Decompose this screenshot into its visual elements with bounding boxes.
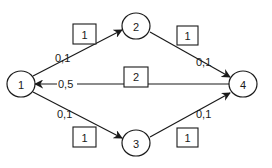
flow-label-2-4: 0,1 — [196, 56, 211, 68]
capacity-label-3-4: 1 — [184, 132, 190, 144]
edge-4-1: 2 0,5 — [35, 67, 230, 90]
capacity-label-4-1: 2 — [133, 71, 139, 83]
flow-label-4-1: 0,5 — [58, 78, 73, 90]
flow-label-3-4: 0,1 — [196, 108, 211, 120]
node-label-2: 2 — [133, 21, 139, 33]
edge-3-4: 1 0,1 — [150, 93, 230, 147]
edge-2-4: 1 0,1 — [150, 26, 230, 77]
network-diagram: 1 0,1 1 0,1 2 0,5 1 0,1 1 0,1 1 2 — [0, 0, 272, 168]
node-label-1: 1 — [18, 79, 24, 91]
flow-label-1-3: 0,1 — [57, 108, 72, 120]
capacity-label-2-4: 1 — [184, 30, 190, 42]
capacity-label-1-2: 1 — [81, 29, 87, 41]
capacity-label-1-3: 1 — [81, 132, 87, 144]
node-2: 2 — [122, 13, 150, 39]
node-4: 4 — [229, 71, 257, 97]
edge-1-3: 1 0,1 — [33, 92, 122, 147]
edge-1-2: 1 0,1 — [33, 24, 122, 76]
node-label-3: 3 — [133, 138, 139, 150]
flow-label-1-2: 0,1 — [55, 52, 70, 64]
node-3: 3 — [122, 130, 150, 156]
node-label-4: 4 — [240, 79, 246, 91]
node-1: 1 — [7, 71, 35, 97]
